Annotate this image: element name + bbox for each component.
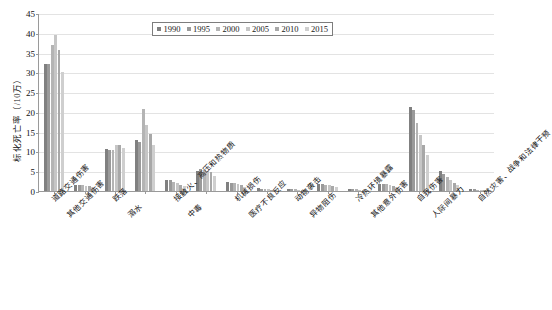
legend-swatch bbox=[187, 27, 191, 31]
bar bbox=[274, 190, 277, 191]
chart-legend: 199019952000200520102015 bbox=[152, 22, 333, 36]
bar bbox=[213, 176, 216, 191]
legend-label: 2010 bbox=[282, 25, 299, 34]
x-axis-label: 异物阻伤 bbox=[307, 189, 338, 220]
bar-group bbox=[105, 14, 126, 191]
bar-group bbox=[317, 14, 338, 191]
x-axis-tick-mark bbox=[297, 191, 298, 194]
bar bbox=[487, 190, 490, 191]
bar bbox=[243, 187, 246, 191]
y-axis-tick-label: 30 bbox=[26, 68, 35, 78]
y-axis-tick-label: 40 bbox=[26, 29, 35, 39]
bar-group bbox=[226, 14, 247, 191]
bar-group bbox=[469, 14, 490, 191]
x-axis-tick-mark bbox=[206, 191, 207, 194]
x-axis-tick-mark bbox=[267, 191, 268, 194]
y-axis-tick-label: 35 bbox=[26, 49, 35, 59]
x-axis-tick-mark bbox=[145, 191, 146, 194]
y-axis-tick-label: 25 bbox=[26, 88, 35, 98]
bar-group bbox=[257, 14, 278, 191]
y-axis-tick-mark bbox=[36, 192, 39, 193]
bar-group bbox=[439, 14, 460, 191]
legend-label: 1990 bbox=[164, 25, 181, 34]
bar-group bbox=[165, 14, 186, 191]
x-axis-tick-mark bbox=[419, 191, 420, 194]
bar-group bbox=[287, 14, 308, 191]
y-axis-tick-label: 20 bbox=[26, 108, 35, 118]
y-axis-tick-label: 5 bbox=[31, 167, 36, 177]
x-axis-tick-mark bbox=[480, 191, 481, 194]
x-axis-tick-mark bbox=[328, 191, 329, 194]
x-axis-tick-mark bbox=[176, 191, 177, 194]
legend-item: 2010 bbox=[275, 25, 299, 34]
bar bbox=[365, 190, 368, 191]
legend-label: 1995 bbox=[193, 25, 210, 34]
x-axis-tick-mark bbox=[449, 191, 450, 194]
bar-group bbox=[409, 14, 430, 191]
y-axis-title: 标化死亡率（/10万） bbox=[10, 58, 22, 178]
legend-swatch bbox=[157, 27, 161, 31]
bar bbox=[152, 145, 155, 191]
bar bbox=[122, 148, 125, 191]
y-axis-tick-label: 15 bbox=[26, 128, 35, 138]
bar bbox=[91, 187, 94, 191]
y-axis-tick-label: 0 bbox=[31, 187, 36, 197]
x-axis-tick-mark bbox=[54, 191, 55, 194]
legend-swatch bbox=[246, 27, 250, 31]
bar bbox=[395, 187, 398, 191]
bar bbox=[61, 72, 64, 191]
plot-area: 051015202530354045 bbox=[38, 14, 494, 192]
bar bbox=[456, 185, 459, 191]
bar-series-layer bbox=[39, 14, 494, 191]
x-axis-tick-mark bbox=[85, 191, 86, 194]
legend-swatch bbox=[216, 27, 220, 31]
legend-item: 1990 bbox=[157, 25, 181, 34]
legend-label: 2015 bbox=[311, 25, 328, 34]
y-axis-tick-label: 10 bbox=[26, 147, 35, 157]
legend-swatch bbox=[275, 27, 279, 31]
legend-label: 2005 bbox=[252, 25, 269, 34]
legend-item: 2015 bbox=[305, 25, 329, 34]
x-axis-label: 中毒 bbox=[185, 200, 204, 219]
x-axis-tick-mark bbox=[115, 191, 116, 194]
bar-group bbox=[74, 14, 95, 191]
x-axis-label: 溺水 bbox=[125, 200, 144, 219]
bar-group bbox=[378, 14, 399, 191]
legend-item: 1995 bbox=[187, 25, 211, 34]
legend-label: 2000 bbox=[223, 25, 240, 34]
y-axis-tick-label: 45 bbox=[26, 9, 35, 19]
legend-swatch bbox=[305, 27, 309, 31]
bar bbox=[304, 190, 307, 191]
x-axis-tick-mark bbox=[358, 191, 359, 194]
bar-group bbox=[196, 14, 217, 191]
bar bbox=[335, 187, 338, 191]
bar bbox=[426, 155, 429, 191]
bar bbox=[183, 186, 186, 191]
legend-item: 2005 bbox=[246, 25, 270, 34]
bar-group bbox=[135, 14, 156, 191]
bar-group bbox=[44, 14, 65, 191]
legend-item: 2000 bbox=[216, 25, 240, 34]
x-axis-tick-mark bbox=[389, 191, 390, 194]
x-axis-tick-mark bbox=[237, 191, 238, 194]
bar-group bbox=[348, 14, 369, 191]
